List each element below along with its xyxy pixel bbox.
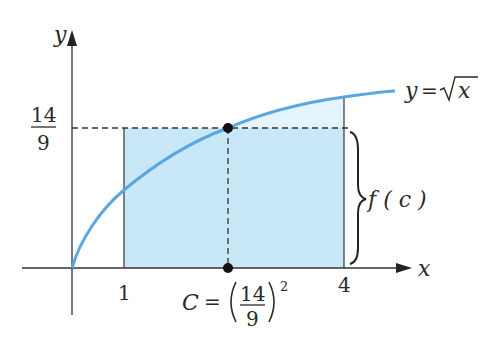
excess-area — [228, 97, 344, 128]
c-label-denominator: 9 — [246, 307, 259, 331]
right-paren-icon — [269, 282, 274, 322]
y-tick-denominator: 9 — [37, 131, 50, 155]
mean-value-rectangle — [124, 128, 344, 268]
function-label-eq: = — [421, 79, 438, 103]
axis-point-c — [223, 263, 233, 273]
function-label-arg: x — [458, 78, 471, 103]
f-of-c-label: f ( c ) — [366, 187, 427, 212]
x-axis-arrow-icon — [396, 263, 412, 273]
left-paren-icon — [231, 282, 236, 322]
curve-point-c — [223, 123, 233, 133]
y-axis-label: y — [53, 22, 67, 47]
x-tick-4: 4 — [338, 273, 351, 297]
x-tick-1: 1 — [118, 281, 131, 305]
c-label-numerator: 14 — [240, 282, 265, 306]
y-tick-numerator: 14 — [31, 103, 56, 127]
mean-value-diagram: y x 1 4 14 9 y = x f ( c ) C = 14 9 2 — [0, 0, 481, 350]
function-label-lhs: y — [404, 78, 418, 103]
brace-icon — [350, 132, 366, 264]
c-label-exponent: 2 — [280, 279, 288, 294]
c-label-lhs: C — [182, 290, 199, 315]
x-axis-label: x — [418, 256, 431, 281]
y-axis-arrow-icon — [67, 30, 77, 46]
c-label-eq: = — [204, 290, 221, 314]
